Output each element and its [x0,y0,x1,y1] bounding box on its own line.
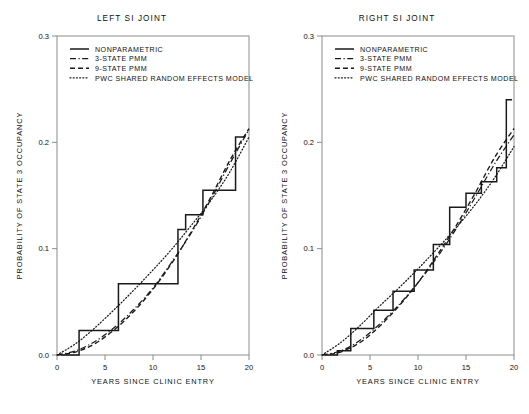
plot-right: 0.00.10.20.305101520YEARS SINCE CLINIC E… [265,0,529,414]
legend-label: NONPARAMETRIC [360,46,428,54]
legend-label: 3-STATE PMM [95,55,147,63]
y-tick-label: 0.1 [303,244,314,253]
y-tick-label: 0.0 [38,351,49,360]
panel-left-si-joint: LEFT SI JOINT 0.00.10.20.305101520YEARS … [0,0,264,414]
x-tick-label: 0 [320,363,324,372]
y-tick-label: 0.2 [303,138,314,147]
series-dash-dot [322,135,514,355]
plot-left: 0.00.10.20.305101520YEARS SINCE CLINIC E… [0,0,264,414]
x-tick-label: 5 [368,363,372,372]
x-tick-label: 15 [197,363,205,372]
plot-frame [57,36,249,355]
y-tick-label: 0.2 [38,138,49,147]
y-axis-label: PROBABILITY OF STATE 3 OCCUPANCY [15,112,24,280]
y-tick-label: 0.3 [303,32,314,41]
x-tick-label: 10 [149,363,157,372]
x-tick-label: 20 [510,363,518,372]
x-tick-label: 10 [414,363,422,372]
x-tick-label: 20 [245,363,253,372]
legend-label: PWC SHARED RANDOM EFFECTS MODEL [95,75,254,83]
legend-label: PWC SHARED RANDOM EFFECTS MODEL [360,75,519,83]
y-tick-label: 0.1 [38,244,49,253]
series-dotted [322,147,514,355]
series-dashed [322,129,514,355]
series-solid [325,100,512,355]
y-tick-label: 0.3 [38,32,49,41]
legend-label: 9-STATE PMM [360,65,412,73]
x-tick-label: 5 [103,363,107,372]
x-axis-label: YEARS SINCE CLINIC ENTRY [91,377,214,386]
legend-label: 3-STATE PMM [360,55,412,63]
y-tick-label: 0.0 [303,351,314,360]
legend-label: NONPARAMETRIC [95,46,163,54]
series-dash-dot [57,130,249,355]
series-dashed [57,129,249,355]
series-solid [61,137,245,355]
x-tick-label: 0 [55,363,59,372]
y-axis-label: PROBABILITY OF STATE 3 OCCUPANCY [280,112,289,280]
figure-root: LEFT SI JOINT 0.00.10.20.305101520YEARS … [0,0,529,414]
series-dotted [57,137,249,355]
panel-right-si-joint: RIGHT SI JOINT 0.00.10.20.305101520YEARS… [265,0,529,414]
x-axis-label: YEARS SINCE CLINIC ENTRY [356,377,479,386]
x-tick-label: 15 [462,363,470,372]
legend-label: 9-STATE PMM [95,65,147,73]
plot-frame [322,36,514,355]
